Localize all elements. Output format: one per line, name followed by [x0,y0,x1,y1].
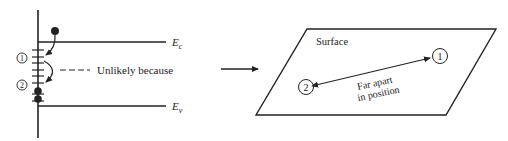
distance-label: Far apart in position [354,73,400,103]
site-1-marker: 1 [433,49,448,64]
state-2-label: 2 [20,81,24,90]
electron-dot-filled-state [34,87,42,95]
surface-plane [256,29,496,115]
surface-label: Surface [316,36,348,47]
band-diagram: 1 2 Unlikely because Ec Ev [17,10,183,138]
electron-dot-filled-state [34,95,42,103]
diagram-canvas: 1 2 Unlikely because Ec Ev Surface 1 2 F… [0,0,508,141]
state-1-marker: 1 [17,53,27,63]
surface-diagram: Surface 1 2 Far apart in position [256,29,496,115]
capture-arrow-icon [46,35,55,55]
site-2-marker: 2 [299,80,314,95]
unlikely-note: Unlikely because [97,64,173,76]
state-2-marker: 2 [17,80,27,90]
ec-label: Ec [171,36,183,51]
site-2-label: 2 [304,82,309,93]
electron-dot-conduction [51,27,59,35]
state-1-label: 1 [20,54,24,63]
hop-arrow-icon [44,61,53,82]
ev-label: Ev [171,100,183,115]
site-1-label: 1 [438,51,443,62]
